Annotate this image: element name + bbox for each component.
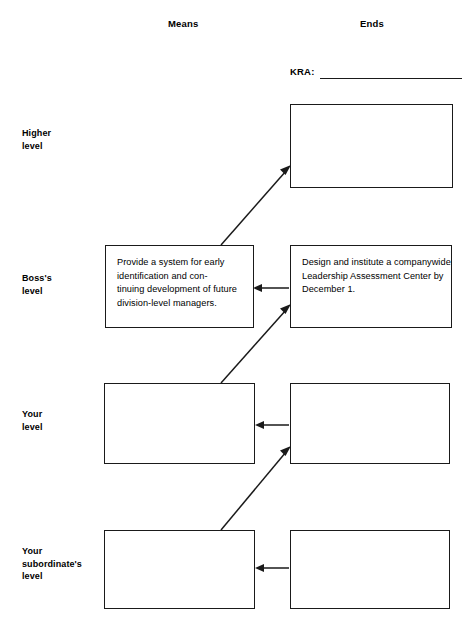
means-box-boss-level-text: Provide a system for early identificatio… (106, 246, 253, 310)
ends-box-your-level[interactable] (290, 383, 450, 464)
kra-label: KRA: (290, 66, 315, 77)
kra-blank-line[interactable] (320, 78, 462, 79)
row-label-boss-level: Boss's level (22, 272, 104, 297)
column-header-means: Means (168, 18, 199, 29)
arrow-means-boss-to-ends-higher (221, 165, 291, 245)
means-ends-diagram: Means Ends KRA: Higher level Boss's leve… (0, 0, 474, 633)
means-box-your-level[interactable] (104, 383, 255, 464)
ends-box-your-subordinates-level[interactable] (290, 530, 450, 609)
column-header-ends: Ends (360, 18, 384, 29)
ends-box-your-subordinates-level-text (291, 531, 449, 541)
ends-box-boss-level[interactable]: Design and institute a companywide Leade… (290, 245, 452, 328)
arrow-ends-your-to-means-your (255, 421, 289, 429)
means-box-your-level-text (105, 384, 254, 394)
ends-box-higher-level[interactable] (290, 104, 453, 188)
ends-box-higher-level-text (291, 105, 452, 115)
means-box-your-subordinates-level-text (105, 531, 254, 541)
kra-field: KRA: (290, 66, 465, 84)
ends-box-boss-level-text: Design and institute a companywide Leade… (291, 246, 451, 297)
means-box-boss-level[interactable]: Provide a system for early identificatio… (105, 245, 254, 328)
means-box-your-subordinates-level[interactable] (104, 530, 255, 609)
row-label-higher-level: Higher level (22, 127, 104, 152)
row-label-your-level: Your level (22, 408, 104, 433)
arrow-ends-subordinate-to-means-subordinate (255, 564, 289, 572)
arrow-ends-boss-to-means-boss (253, 284, 289, 292)
ends-box-your-level-text (291, 384, 449, 394)
row-label-your-subordinates-level: Your subordinate's level (22, 545, 104, 583)
